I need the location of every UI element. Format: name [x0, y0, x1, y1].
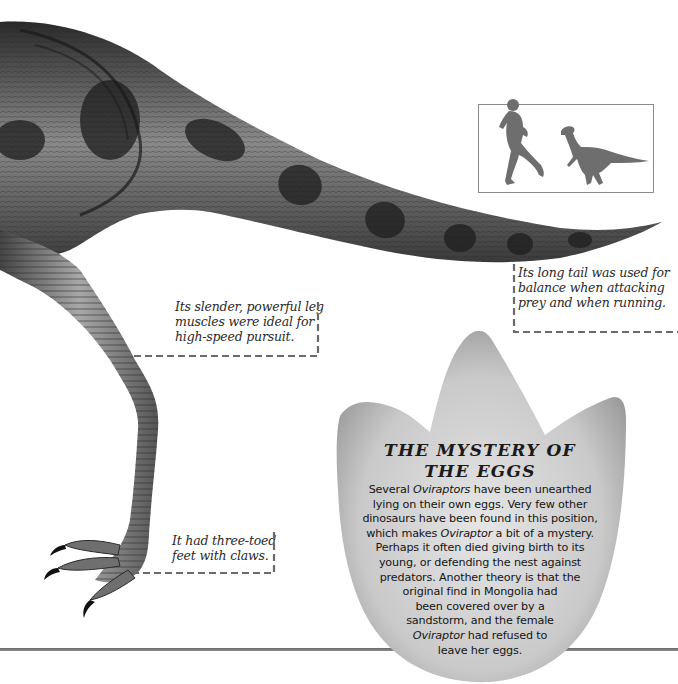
egg-panel-body: Several Oviraptors have been unearthed l…	[340, 483, 620, 658]
body-line: Oviraptor had refused to	[340, 629, 620, 644]
body-line: lying on their own eggs. Very few other	[340, 498, 620, 513]
body-line: leave her eggs.	[340, 644, 620, 659]
body-line: which makes Oviraptor a bit of a mystery…	[340, 527, 620, 542]
feet-caption-leader-line	[130, 530, 280, 576]
body-line: dinosaurs have been found in this positi…	[340, 512, 620, 527]
scale-comparison-box	[478, 104, 654, 193]
body-line: been covered over by a	[340, 600, 620, 615]
body-line: Several Oviraptors have been unearthed	[340, 483, 620, 498]
body-line: Perhaps it often died giving birth to it…	[340, 541, 620, 556]
egg-panel-title: THE MYSTERY OF THE EGGS	[340, 440, 620, 482]
title-line-1: THE MYSTERY OF	[340, 440, 620, 461]
body-line: original find in Mongolia had	[340, 585, 620, 600]
egg-panel: THE MYSTERY OF THE EGGS Several Ovirapto…	[340, 440, 620, 658]
leg-caption-leader-line	[128, 300, 324, 360]
body-line: young, or defending the nest against	[340, 556, 620, 571]
human-runner-silhouette-icon	[499, 99, 559, 187]
body-line: predators. Another theory is that the	[340, 571, 620, 586]
title-line-2: THE EGGS	[340, 461, 620, 482]
body-line: sandstorm, and the female	[340, 614, 620, 629]
dinosaur-silhouette-icon	[559, 125, 651, 187]
